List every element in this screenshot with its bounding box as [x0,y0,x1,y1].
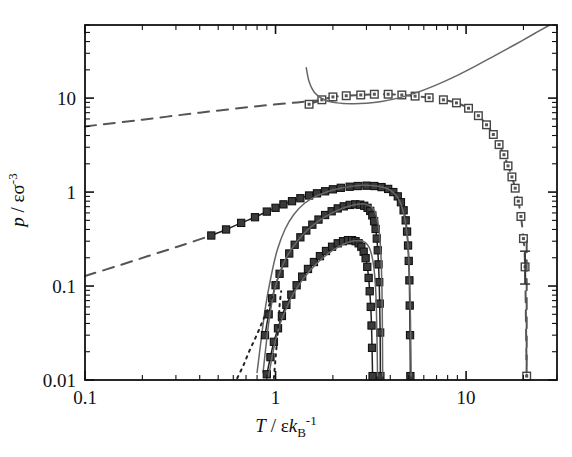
data-point-marker-core [331,95,334,98]
data-point-marker [364,263,371,270]
data-point-marker [297,195,304,202]
y-tick-label: 0.1 [52,276,76,297]
data-point-marker-core [387,93,390,96]
data-point-marker-core [498,143,501,146]
x-tick-label: 0.1 [73,387,97,408]
data-point-marker-core [485,123,488,126]
data-point-marker [368,322,375,329]
data-point-marker-core [502,153,505,156]
data-point-marker-core [345,94,348,97]
data-point-marker-core [510,175,513,178]
data-point-marker [272,204,279,211]
data-point-marker [222,226,229,233]
data-point-marker [263,208,270,215]
data-point-marker [366,288,373,295]
chart-svg: 0.11100.010.1110 T / εkB-1 p / εσ-3 [0,0,572,457]
chart-figure: 0.11100.010.1110 T / εkB-1 p / εσ-3 [0,0,572,457]
y-tick-label: 0.01 [43,370,76,391]
data-point-marker [368,344,375,351]
data-point-marker-core [492,133,495,136]
data-point-marker-core [507,164,510,167]
data-point-marker [280,201,287,208]
data-point-marker-core [414,95,417,98]
y-tick-label: 1 [67,182,77,203]
data-point-marker-core [522,237,525,240]
data-point-marker-core [400,93,403,96]
data-point-marker-core [519,215,522,218]
data-point-marker-core [514,187,517,190]
data-point-marker-core [517,200,520,203]
data-point-marker [362,255,369,262]
x-tick-label: 1 [271,387,281,408]
data-point-marker [238,219,245,226]
data-point-marker-core [477,114,480,117]
data-point-marker-core [442,98,445,101]
data-point-marker [288,198,295,205]
data-point-marker-core [467,107,470,110]
data-point-marker [369,373,376,380]
data-point-marker [367,303,374,310]
data-point-marker [208,232,215,239]
data-point-marker-core [308,103,311,106]
y-tick-label: 10 [57,88,76,109]
data-point-marker [251,214,258,221]
data-point-marker-core [455,101,458,104]
x-tick-label: 10 [457,387,476,408]
data-point-marker-core [359,93,362,96]
data-point-marker-core [373,93,376,96]
data-point-marker [407,373,414,380]
data-point-marker [365,274,372,281]
data-point-marker-core [428,96,431,99]
